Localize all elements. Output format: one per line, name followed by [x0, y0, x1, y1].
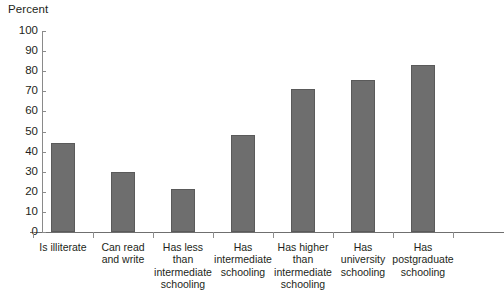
x-axis-label: Has higher than intermediate schooling [270, 241, 336, 291]
y-axis-title: Percent [8, 3, 48, 15]
y-axis-tick-label: 100 [8, 25, 38, 37]
x-axis-label: Is illiterate [30, 241, 96, 253]
bar [171, 189, 195, 232]
category-separator [153, 232, 154, 238]
bar [411, 65, 435, 232]
y-axis-tick-label: 80 [8, 65, 38, 77]
category-separator [273, 232, 274, 238]
bar [231, 135, 255, 232]
y-axis-tick-label: 10 [8, 206, 38, 218]
y-axis-tick [42, 51, 46, 52]
y-axis-tick [42, 212, 46, 213]
y-axis-tick-label: 50 [8, 126, 38, 138]
category-separator [393, 232, 394, 238]
x-axis-label: Has intermediate schooling [210, 241, 276, 278]
category-separator [93, 232, 94, 238]
category-separator [213, 232, 214, 238]
y-axis-tick-label: 90 [8, 45, 38, 57]
y-axis-tick-label: 40 [8, 146, 38, 158]
x-axis-label: Can read and write [90, 241, 156, 266]
y-axis-tick [42, 71, 46, 72]
y-axis-tick [42, 31, 46, 32]
y-axis-tick-label: 70 [8, 86, 38, 98]
category-separator [33, 232, 34, 238]
bar [351, 80, 375, 232]
y-axis-tick-label: 60 [8, 106, 38, 118]
y-axis-tick [42, 152, 46, 153]
y-axis-tick-label: 20 [8, 186, 38, 198]
x-axis-label: Has postgraduate schooling [390, 241, 456, 278]
y-axis-tick [42, 111, 46, 112]
y-axis-tick [42, 172, 46, 173]
bar [291, 89, 315, 232]
bar [111, 172, 135, 232]
plot-area: 1009080706050403020100 [42, 31, 462, 232]
bar [51, 143, 75, 232]
category-separator [453, 232, 454, 238]
y-axis-tick [42, 192, 46, 193]
x-axis-label: Has university schooling [330, 241, 396, 278]
x-axis-line [30, 232, 504, 233]
category-separator [333, 232, 334, 238]
y-axis-tick [42, 232, 46, 233]
y-axis-tick [42, 132, 46, 133]
y-axis-tick-label: 30 [8, 166, 38, 178]
x-axis-label: Has less than intermediate schooling [150, 241, 216, 291]
y-axis-tick [42, 91, 46, 92]
